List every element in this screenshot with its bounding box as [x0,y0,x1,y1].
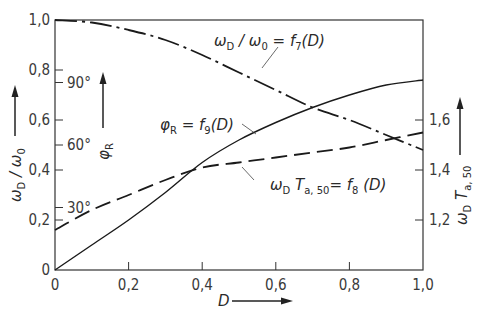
angle-axis-arrowhead-icon [100,72,107,84]
annotation-f9: φR = f9(D) [160,116,234,136]
chart: 00,20,40,60,81,000,20,40,60,81,030°60°90… [0,0,486,322]
y-tick-label-left: 0,8 [29,61,50,79]
left-axis-arrowhead-icon [12,85,19,97]
annotation-f8: ωD Ta, 50= f8 (D) [270,176,386,196]
angle-axis-label: φR [95,143,115,160]
x-axis-label: D [218,292,230,310]
x-tick-label: 0,8 [339,276,360,294]
right-axis-arrowhead-icon [457,97,464,109]
x-tick-label: 0,6 [265,276,286,294]
angle-tick-label: 90° [67,74,91,92]
angle-tick-label: 60° [67,136,91,154]
y-tick-label-right: 1,2 [429,211,450,229]
y-tick-label-right: 1,4 [429,161,450,179]
right-axis-label: ωD Ta, 50 [453,166,473,225]
y-tick-label-left: 0 [41,261,50,279]
y-tick-label-left: 0,6 [29,111,50,129]
leader-f8 [242,167,254,180]
annotation-f7: ωD / ω0 = f7(D) [214,32,325,52]
x-tick-label: 1,0 [412,276,433,294]
x-tick-label: 0 [51,276,60,294]
leader-f9 [242,124,256,134]
y-tick-label-left: 0,4 [29,161,50,179]
x-tick-label: 0,4 [191,276,212,294]
angle-tick-label: 30° [67,199,91,217]
curve-f9 [55,80,423,270]
left-axis-label: ωD / ω0 [7,148,27,202]
y-tick-label-left: 0,2 [29,211,50,229]
x-tick-label: 0,2 [118,276,139,294]
ticks [55,70,423,270]
y-tick-label-left: 1,0 [29,11,50,29]
tick-labels: 00,20,40,60,81,000,20,40,60,81,030°60°90… [29,11,451,294]
x-axis-arrowhead-icon [281,298,293,305]
y-tick-label-right: 1,6 [429,111,450,129]
